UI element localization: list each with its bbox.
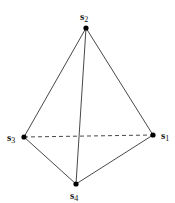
vertex-label-s1: s1 <box>161 129 169 143</box>
vertex-s4 <box>73 181 78 186</box>
vertex-s3 <box>21 134 26 139</box>
edge-s2-s1 <box>86 28 153 135</box>
edge-s3-s4 <box>24 137 76 184</box>
edge-s4-s1 <box>76 135 153 184</box>
edge-s2-s4 <box>76 28 86 184</box>
edge-s2-s3 <box>24 28 86 137</box>
vertex-label-s4: s4 <box>70 189 78 203</box>
vertex-labels: s1s2s3s4 <box>7 10 169 203</box>
vertex-s1 <box>150 132 155 137</box>
tetrahedron-diagram: s1s2s3s4 <box>0 0 175 203</box>
vertex-label-s3: s3 <box>7 131 15 145</box>
edges <box>24 28 153 184</box>
vertex-label-s2: s2 <box>80 10 88 24</box>
edge-s3-s1-hidden <box>24 135 153 137</box>
vertex-s2 <box>83 25 88 30</box>
